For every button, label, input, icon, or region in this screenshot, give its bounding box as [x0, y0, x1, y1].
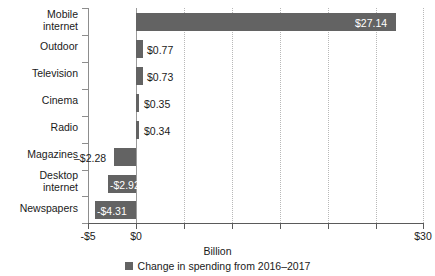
bar-television: [136, 67, 143, 85]
legend-label: Change in spending from 2016–2017: [138, 260, 311, 272]
gridline-20: [328, 8, 329, 223]
value-label-desktop-internet: -$2.92: [110, 179, 140, 191]
category-label-desktop-internet: Desktop internet: [39, 170, 78, 193]
category-label-newspapers: Newspapers: [20, 203, 78, 215]
x-axis-tick: [376, 224, 377, 229]
x-axis-tick: [280, 224, 281, 229]
category-label-cinema: Cinema: [42, 95, 78, 107]
value-label-radio: $0.34: [144, 125, 170, 137]
x-axis-tick: [184, 224, 185, 229]
x-axis-title: Billion: [0, 245, 435, 257]
category-label-outdoor: Outdoor: [40, 41, 78, 53]
x-axis-line: [88, 223, 424, 224]
x-axis-tick: [136, 224, 137, 229]
x-axis-tick: [232, 224, 233, 229]
y-axis-tick: [82, 35, 88, 36]
value-label-mobile-internet: $27.14: [355, 17, 387, 29]
value-label-newspapers: -$4.31: [97, 205, 127, 217]
category-label-radio: Radio: [51, 122, 78, 134]
bar-cinema: [136, 94, 139, 112]
x-axis-tick: [328, 224, 329, 229]
y-axis-tick: [82, 62, 88, 63]
x-tick-label-minus-five: -$5: [80, 230, 95, 242]
gridline-30: [423, 8, 424, 223]
chart-legend: Change in spending from 2016–2017: [0, 260, 435, 272]
gridline-10: [232, 8, 233, 223]
value-label-outdoor: $0.77: [147, 44, 173, 56]
y-axis-line: [88, 8, 89, 223]
y-axis-tick: [82, 8, 88, 9]
bar-chart: Mobile internet Outdoor Television Cinem…: [0, 0, 435, 276]
x-tick-label-thirty: $30: [414, 230, 432, 242]
gridline-15: [280, 8, 281, 223]
y-axis-tick: [82, 196, 88, 197]
y-axis-tick: [82, 116, 88, 117]
bar-magazines: [114, 148, 136, 166]
value-label-television: $0.73: [147, 71, 173, 83]
value-label-cinema: $0.35: [144, 98, 170, 110]
y-axis-tick: [82, 170, 88, 171]
category-label-magazines: Magazines: [27, 149, 78, 161]
x-tick-label-zero: $0: [130, 230, 142, 242]
x-axis-tick: [88, 224, 89, 229]
gridline-5: [184, 8, 185, 223]
bar-radio: [136, 121, 139, 139]
category-label-television: Television: [32, 68, 78, 80]
y-axis-tick: [82, 89, 88, 90]
value-label-magazines: –$2.28: [74, 152, 106, 164]
category-axis-labels: Mobile internet Outdoor Television Cinem…: [0, 0, 82, 276]
y-axis-tick: [82, 143, 88, 144]
category-label-mobile-internet: Mobile internet: [43, 9, 78, 32]
legend-swatch-icon: [125, 262, 133, 270]
bar-outdoor: [136, 40, 143, 58]
gridline-25: [376, 8, 377, 223]
x-axis-tick: [423, 224, 424, 229]
